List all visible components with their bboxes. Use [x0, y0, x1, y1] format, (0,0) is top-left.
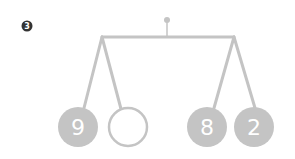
ball-3: 8	[187, 107, 227, 147]
strings	[84, 37, 255, 109]
ball-1: 9	[58, 107, 98, 147]
problem-number-badge: 3	[22, 21, 33, 32]
problem-number: 3	[24, 22, 30, 31]
hanging-mobile-diagram: 3 9 8 2	[0, 0, 295, 159]
ball-label: 9	[71, 115, 85, 140]
string-ball-2	[102, 37, 121, 109]
string-ball-4	[234, 37, 255, 108]
string-ball-3	[214, 37, 234, 108]
hanger	[164, 17, 170, 37]
ball-4: 2	[234, 107, 274, 147]
empty-ball-circle[interactable]	[109, 108, 147, 146]
string-ball-1	[84, 37, 102, 108]
ball-2-empty[interactable]	[109, 108, 147, 146]
ball-label: 8	[200, 115, 214, 140]
ball-label: 2	[247, 115, 261, 140]
